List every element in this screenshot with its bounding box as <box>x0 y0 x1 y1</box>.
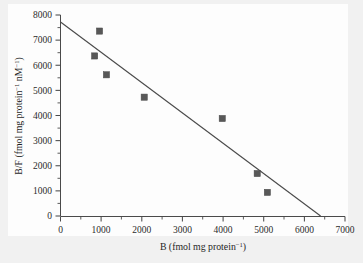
regression-line <box>61 22 321 216</box>
y-axis-ticks <box>56 15 61 216</box>
x-axis-title-superscript: −1 <box>236 241 243 248</box>
y-tick-label-2000: 2000 <box>33 161 52 171</box>
data-point-marker <box>264 189 270 195</box>
x-axis-tick-labels: 0 1000 2000 3000 4000 5000 6000 7000 <box>58 225 355 235</box>
y-axis-title-superscript-2: −1 <box>13 61 20 68</box>
x-tick-label-6000: 6000 <box>295 225 314 235</box>
data-point-marker <box>92 53 98 59</box>
x-axis-title: B (fmol mg protein−1) <box>160 241 246 253</box>
x-tick-label-4000: 4000 <box>214 225 233 235</box>
x-axis-ticks <box>61 217 346 222</box>
x-tick-label-1000: 1000 <box>92 225 111 235</box>
x-tick-label-0: 0 <box>58 225 63 235</box>
x-axis-title-base: B (fmol mg protein <box>160 241 236 253</box>
y-tick-label-8000: 8000 <box>33 10 52 20</box>
data-point-marker <box>254 170 260 176</box>
y-tick-label-1000: 1000 <box>33 186 52 196</box>
y-axis-title-superscript-1: −1 <box>13 84 20 91</box>
y-tick-label-4000: 4000 <box>33 111 52 121</box>
y-tick-label-7000: 7000 <box>33 35 52 45</box>
y-tick-label-5000: 5000 <box>33 86 52 96</box>
x-tick-label-2000: 2000 <box>132 225 151 235</box>
y-axis-title-mid: nM <box>13 67 24 83</box>
axes <box>61 15 346 217</box>
x-tick-label-5000: 5000 <box>254 225 273 235</box>
data-point-marker <box>103 72 109 78</box>
y-axis-title: B/F (fmol mg protein−1 nM−1) <box>13 57 25 174</box>
y-axis-title-base: B/F (fmol mg protein <box>13 91 25 175</box>
y-axis-tick-labels: 0 1000 2000 3000 4000 5000 6000 7000 800… <box>33 10 52 221</box>
y-tick-label-0: 0 <box>47 211 52 221</box>
x-tick-label-3000: 3000 <box>173 225 192 235</box>
x-axis-title-tail: ) <box>243 241 246 253</box>
y-tick-label-3000: 3000 <box>33 136 52 146</box>
scatchard-plot: 0 1000 2000 3000 4000 5000 6000 7000 800… <box>0 0 363 263</box>
data-point-marker <box>96 28 102 34</box>
y-tick-label-6000: 6000 <box>33 61 52 71</box>
x-tick-label-7000: 7000 <box>336 225 355 235</box>
y-axis-title-tail: ) <box>13 57 25 60</box>
data-point-marker <box>219 115 225 121</box>
data-point-marker <box>141 94 147 100</box>
chart-page: 0 1000 2000 3000 4000 5000 6000 7000 800… <box>0 0 363 263</box>
